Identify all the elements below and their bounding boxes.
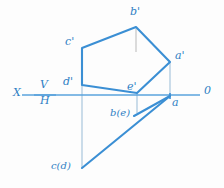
label-d-prime: d' xyxy=(63,76,73,87)
label-c-prime: c' xyxy=(65,36,74,47)
label-h-plane: H xyxy=(40,95,50,106)
label-e-prime: e' xyxy=(127,81,137,92)
projection-diagram: b' c' a' d' e' a b(e) c(d) X V H 0 xyxy=(0,0,224,188)
label-be: b(e) xyxy=(110,108,130,118)
diagram-canvas xyxy=(0,0,224,188)
label-x-axis: X xyxy=(13,87,21,98)
label-cd: c(d) xyxy=(51,161,71,171)
label-b-prime: b' xyxy=(130,6,140,17)
horizontal-view-edge-a-be xyxy=(134,96,170,116)
frontal-view-pentagon xyxy=(82,27,170,93)
label-origin-zero: 0 xyxy=(204,85,211,96)
label-a-prime: a' xyxy=(175,50,185,61)
label-v-plane: V xyxy=(40,79,48,90)
label-a: a xyxy=(172,97,179,108)
